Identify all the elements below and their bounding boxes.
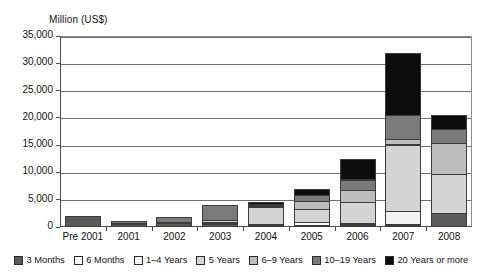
legend-swatch-icon bbox=[312, 256, 321, 265]
bar-2004[interactable] bbox=[248, 203, 284, 227]
legend-label: 5 Years bbox=[209, 255, 240, 265]
x-axis-label: 2005 bbox=[289, 231, 335, 242]
bar-segment bbox=[65, 216, 101, 227]
y-axis-label: 15,000 bbox=[22, 138, 53, 149]
legend-label: 3 Months bbox=[27, 255, 65, 265]
bar-segment bbox=[385, 211, 421, 224]
y-axis-tick bbox=[56, 227, 60, 228]
bar-2005[interactable] bbox=[294, 190, 330, 227]
legend-label: 1–4 Years bbox=[146, 255, 187, 265]
y-axis-tick bbox=[56, 172, 60, 173]
legend-item[interactable]: 6 Months bbox=[74, 255, 125, 265]
y-axis-label: 10,000 bbox=[22, 165, 53, 176]
y-axis-tick bbox=[56, 90, 60, 91]
gridline bbox=[61, 37, 471, 38]
bar-2002[interactable] bbox=[156, 217, 192, 227]
x-axis-label: 2008 bbox=[426, 231, 472, 242]
stacked-bar-chart: Million (US$) 05,00010,00015,00020,00025… bbox=[0, 0, 492, 278]
legend-swatch-icon bbox=[249, 256, 258, 265]
y-axis-label: 0 bbox=[47, 220, 53, 231]
x-axis-label: 2007 bbox=[380, 231, 426, 242]
bar-segment bbox=[294, 225, 330, 227]
y-axis-tick bbox=[56, 63, 60, 64]
bar-segment bbox=[431, 143, 467, 175]
y-axis-tick bbox=[56, 199, 60, 200]
bar-segment bbox=[340, 202, 376, 224]
legend-item[interactable]: 10–19 Years bbox=[312, 255, 376, 265]
legend-item[interactable]: 5 Years bbox=[196, 255, 240, 265]
x-axis-label: 2003 bbox=[197, 231, 243, 242]
legend-item[interactable]: 6–9 Years bbox=[249, 255, 303, 265]
bar-segment bbox=[385, 145, 421, 212]
y-axis-tick bbox=[56, 145, 60, 146]
bar-segment bbox=[431, 129, 467, 143]
bar-2007[interactable] bbox=[385, 54, 421, 227]
bar-segment bbox=[111, 224, 147, 227]
x-axis-label: 2006 bbox=[335, 231, 381, 242]
y-axis-tick bbox=[56, 117, 60, 118]
footer-rule bbox=[0, 276, 492, 277]
bar-segment bbox=[248, 207, 284, 225]
bar-segment bbox=[385, 225, 421, 227]
bar-2006[interactable] bbox=[340, 159, 376, 227]
bar-segment bbox=[385, 53, 421, 116]
legend-swatch-icon bbox=[74, 256, 83, 265]
y-axis-label: 20,000 bbox=[22, 111, 53, 122]
legend-item[interactable]: 1–4 Years bbox=[134, 255, 188, 265]
bar-segment bbox=[340, 190, 376, 203]
bar-segment bbox=[431, 213, 467, 227]
bar-segment bbox=[431, 174, 467, 214]
chart-legend: 3 Months6 Months1–4 Years5 Years6–9 Year… bbox=[14, 255, 477, 265]
y-axis-label: 30,000 bbox=[22, 56, 53, 67]
y-axis-tick bbox=[56, 36, 60, 37]
legend-item[interactable]: 3 Months bbox=[14, 255, 65, 265]
legend-label: 10–19 Years bbox=[324, 255, 376, 265]
legend-label: 6 Months bbox=[86, 255, 124, 265]
legend-item[interactable]: 20 Years or more bbox=[385, 255, 468, 265]
bar-segment bbox=[431, 115, 467, 130]
bar-pre-2001[interactable] bbox=[65, 217, 101, 227]
legend-swatch-icon bbox=[196, 256, 205, 265]
x-axis-label: 2002 bbox=[152, 231, 198, 242]
y-axis-label: 5,000 bbox=[28, 193, 53, 204]
y-axis-label: 25,000 bbox=[22, 84, 53, 95]
bar-segment bbox=[294, 209, 330, 222]
legend-label: 6–9 Years bbox=[261, 255, 302, 265]
legend-label: 20 Years or more bbox=[397, 255, 468, 265]
legend-swatch-icon bbox=[14, 256, 23, 265]
legend-swatch-icon bbox=[134, 256, 143, 265]
bar-2001[interactable] bbox=[111, 222, 147, 227]
legend-swatch-icon bbox=[385, 256, 394, 265]
bar-segment bbox=[202, 224, 238, 227]
bar-segment bbox=[385, 115, 421, 139]
x-axis-label: Pre 2001 bbox=[60, 231, 106, 242]
bar-segment bbox=[248, 225, 284, 227]
bar-segment bbox=[202, 205, 238, 221]
bar-segment bbox=[340, 225, 376, 227]
bar-2008[interactable] bbox=[431, 116, 467, 227]
bar-segment bbox=[340, 159, 376, 181]
x-axis-label: 2004 bbox=[243, 231, 289, 242]
bar-segment bbox=[156, 223, 192, 227]
x-axis-label: 2001 bbox=[106, 231, 152, 242]
bar-2003[interactable] bbox=[202, 206, 238, 227]
y-axis-label: 35,000 bbox=[22, 29, 53, 40]
y-axis-title: Million (US$) bbox=[49, 14, 108, 25]
